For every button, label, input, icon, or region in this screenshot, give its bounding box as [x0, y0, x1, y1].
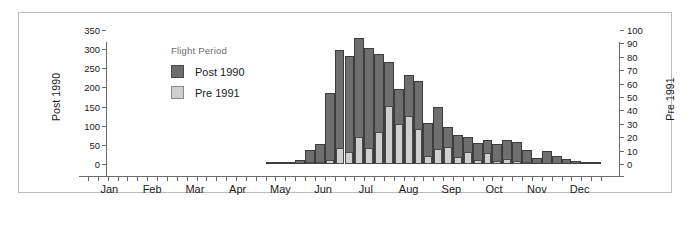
bar-pre-1991 — [484, 153, 492, 164]
bar-post-1990 — [325, 93, 335, 164]
bar-pre-1991 — [345, 152, 353, 164]
bar-pre-1991 — [385, 106, 393, 164]
x-tick — [394, 177, 395, 181]
x-tick — [581, 177, 582, 181]
right-tick — [620, 137, 624, 138]
x-tick — [562, 177, 563, 181]
legend-title: Flight Period — [171, 45, 245, 56]
x-tick-label-feb: Feb — [132, 183, 172, 195]
x-tick-label-dec: Dec — [560, 183, 600, 195]
x-tick — [492, 177, 493, 181]
x-tick — [532, 177, 533, 181]
x-tick-label-oct: Oct — [474, 183, 514, 195]
x-tick-label-apr: Apr — [218, 183, 258, 195]
plot-area — [88, 30, 601, 164]
right-tick — [620, 30, 624, 31]
bar-pre-1991 — [395, 124, 403, 164]
x-tick — [226, 177, 227, 181]
bar-post-1990 — [532, 158, 542, 165]
right-tick-label: 0 — [627, 160, 653, 169]
x-tick-label-jul: Jul — [346, 183, 386, 195]
right-tick-label: 100 — [627, 26, 653, 35]
right-tick-label: 30 — [627, 120, 653, 129]
x-tick — [197, 177, 198, 181]
x-tick — [206, 177, 207, 181]
bar-pre-1991 — [316, 162, 324, 164]
right-tick-label: 80 — [627, 53, 653, 62]
bar-post-1990 — [315, 144, 325, 164]
x-tick — [157, 177, 158, 181]
legend-swatch-pre-1991 — [171, 86, 184, 99]
right-tick-label: 90 — [627, 39, 653, 48]
x-tick — [246, 177, 247, 181]
x-tick — [571, 177, 572, 181]
x-tick — [473, 177, 474, 181]
x-tick — [275, 177, 276, 181]
right-tick — [620, 124, 624, 125]
bar-pre-1991 — [355, 137, 363, 164]
right-axis-title: Pre 1991 — [664, 56, 676, 142]
x-tick — [542, 177, 543, 181]
x-tick — [443, 177, 444, 181]
x-tick — [285, 177, 286, 181]
bar-post-1990 — [364, 48, 374, 164]
x-tick — [414, 177, 415, 181]
x-tick — [552, 177, 553, 181]
x-tick — [364, 177, 365, 181]
right-tick-label: 20 — [627, 133, 653, 142]
x-tick-label-mar: Mar — [175, 183, 215, 195]
right-tick — [620, 151, 624, 152]
x-tick — [345, 177, 346, 181]
bar-post-1990 — [295, 160, 305, 164]
legend-item-post-1990: Post 1990 — [171, 65, 245, 78]
x-tick — [483, 177, 484, 181]
right-tick-label: 10 — [627, 147, 653, 156]
bar-post-1990 — [266, 162, 276, 164]
left-tick — [102, 164, 106, 165]
legend-label-post-1990: Post 1990 — [195, 66, 245, 78]
bar-post-1990 — [562, 159, 572, 164]
legend: Flight Period Post 1990 Pre 1991 — [171, 45, 245, 107]
bar-pre-1991 — [434, 149, 442, 164]
right-tick — [620, 84, 624, 85]
x-tick — [601, 177, 602, 181]
left-axis-title: Post 1990 — [50, 54, 62, 140]
right-tick-label: 60 — [627, 80, 653, 89]
bar-pre-1991 — [415, 129, 423, 164]
x-tick — [374, 177, 375, 181]
x-tick — [118, 177, 119, 181]
x-tick — [167, 177, 168, 181]
bar-post-1990 — [581, 162, 591, 164]
bar-pre-1991 — [474, 160, 482, 164]
legend-label-pre-1991: Pre 1991 — [195, 87, 240, 99]
right-tick — [620, 164, 624, 165]
right-tick — [620, 43, 624, 44]
bar-post-1990 — [591, 162, 601, 164]
x-tick — [295, 177, 296, 181]
x-tick — [266, 177, 267, 181]
x-tick — [177, 177, 178, 181]
x-tick-label-may: May — [260, 183, 300, 195]
bar-pre-1991 — [326, 160, 334, 164]
x-tick-label-aug: Aug — [389, 183, 429, 195]
bar-pre-1991 — [375, 132, 383, 164]
right-tick-label: 40 — [627, 106, 653, 115]
x-tick — [256, 177, 257, 181]
right-tick-label: 70 — [627, 66, 653, 75]
x-tick — [512, 177, 513, 181]
legend-swatch-post-1990 — [171, 65, 184, 78]
x-tick — [305, 177, 306, 181]
x-tick — [354, 177, 355, 181]
bar-post-1990 — [345, 56, 355, 164]
bar-pre-1991 — [306, 162, 314, 164]
bar-pre-1991 — [454, 157, 462, 164]
x-tick — [108, 177, 109, 181]
bar-post-1990 — [552, 156, 562, 164]
x-tick — [88, 177, 89, 181]
x-tick — [384, 177, 385, 181]
x-tick — [335, 177, 336, 181]
x-tick — [315, 177, 316, 181]
bar-pre-1991 — [503, 159, 511, 164]
x-tick-label-jun: Jun — [303, 183, 343, 195]
x-tick — [187, 177, 188, 181]
